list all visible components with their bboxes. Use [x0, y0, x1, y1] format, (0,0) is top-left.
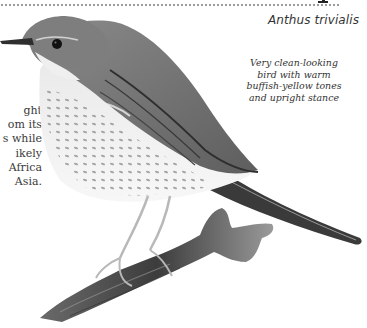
bird-eye: [52, 39, 62, 49]
annotation-note: Very clean-looking bird with warm buffis…: [234, 57, 354, 103]
annotation-line: bird with warm: [234, 69, 354, 81]
bird-beak: [0, 38, 34, 45]
annotation-line: Very clean-looking: [234, 57, 354, 69]
annotation-line: buffish-yellow tones: [234, 80, 354, 92]
annotation-line: and upright stance: [234, 92, 354, 104]
branch: [40, 208, 273, 322]
bird-illustration: [0, 0, 367, 328]
